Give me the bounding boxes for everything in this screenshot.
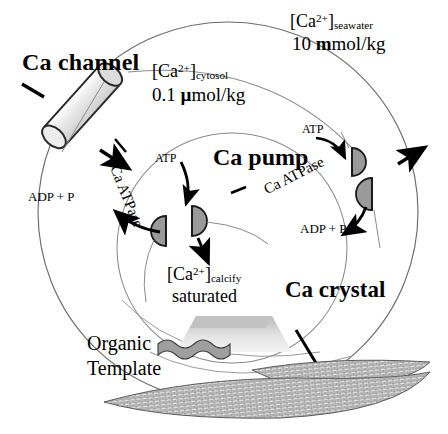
ca-crystal-label: Ca crystal [285,278,385,302]
unit-prefix: m [316,33,332,54]
atp-label-right: ATP [302,123,323,136]
charge: 2+ [193,265,205,277]
calcify-saturation-state: saturated [172,287,237,306]
unit-rest: mol/kg [191,84,245,105]
species: Ca [173,264,193,284]
atp-label-left: ATP [155,152,176,165]
organic-template-label-line1: Organic [87,333,151,354]
compartment: cytosol [196,69,228,81]
atp-input-arrow-left [181,162,188,204]
ca-atpase-pump-center [192,206,268,244]
species: Ca [158,61,178,81]
cytosol-concentration-value: 0.1 µmol/kg [152,85,245,105]
calcify-concentration-label: [Ca2+]calcify [167,265,241,285]
ca-atpase-pump-outer [341,132,366,176]
value: 0.1 [152,84,176,105]
species: Ca [296,11,316,31]
cytosol-concentration-label: [Ca2+]cytosol [152,62,228,82]
organic-template-label-line2: Template [87,358,161,379]
adp-label-right: ADP + P [300,222,347,236]
atpase-left-tick [115,139,126,152]
seawater-concentration-label: [Ca2+]seawater [290,12,373,32]
compartment: calcify [211,272,241,284]
ca-channel-label: Ca channel [22,50,139,75]
adp-label-left: ADP + P [28,190,75,204]
unit-rest: mol/kg [332,33,386,54]
ca-into-calcifying-space-arrow [198,238,208,262]
ca-atpase-pump-inner-right [356,178,380,248]
unit-prefix: µ [181,84,192,105]
compartment: seawater [334,19,373,31]
adp-output-arrow-right [344,207,366,234]
value: 10 [292,33,311,54]
charge: 2+ [316,12,328,24]
atpase-right-tick [231,187,246,193]
diagram-canvas: Ca channel Ca pump Ca crystal [Ca2+]cyto… [0,0,448,434]
charge: 2+ [178,62,190,74]
seawater-concentration-value: 10 mmol/kg [292,34,385,54]
